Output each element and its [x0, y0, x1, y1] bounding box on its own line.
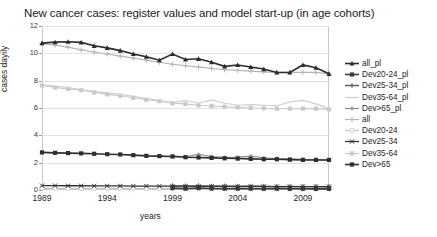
legend-marker-icon: [344, 159, 360, 170]
y-tick-mark: [39, 81, 42, 82]
data-point-marker: [223, 156, 227, 160]
y-tick-label: 8: [16, 77, 38, 85]
y-tick-mark: [39, 135, 42, 136]
data-point-marker: [313, 70, 318, 75]
data-point-marker: [196, 155, 200, 159]
legend-label: Dev>65: [362, 159, 390, 170]
legend-item[interactable]: Dev25-34_pl: [344, 80, 436, 91]
data-point-marker: [235, 68, 240, 73]
data-point-marker: [183, 102, 187, 106]
data-point-marker: [300, 70, 305, 75]
legend-label: Dev25-34_pl: [362, 80, 408, 91]
data-point-marker: [249, 187, 253, 191]
legend-label: all: [362, 114, 370, 125]
legend-marker-icon: [344, 69, 360, 80]
legend-item[interactable]: Dev35-64: [344, 148, 436, 159]
data-point-marker: [144, 154, 148, 158]
x-tick-label: 1999: [152, 193, 192, 203]
data-point-marker: [79, 47, 84, 52]
data-point-marker: [314, 158, 318, 162]
data-point-marker: [183, 63, 188, 68]
data-point-marker: [349, 117, 354, 122]
legend-item[interactable]: Dev25-34: [344, 136, 436, 147]
legend-marker-icon: [344, 114, 360, 125]
legend-label: all_pl: [362, 58, 381, 69]
legend-item[interactable]: Dev35-64_pl: [344, 92, 436, 103]
data-point-marker: [349, 83, 354, 88]
x-axis-label: years: [140, 211, 161, 221]
legend-label: Dev35-64: [362, 148, 398, 159]
data-point-marker: [249, 157, 253, 161]
y-tick-label: 6: [16, 104, 38, 112]
data-point-marker: [92, 152, 96, 156]
data-point-marker: [275, 157, 279, 161]
plot-area: [42, 26, 329, 190]
data-point-marker: [131, 56, 136, 61]
data-point-marker: [248, 69, 253, 74]
data-point-marker: [301, 158, 305, 162]
data-point-marker: [105, 51, 110, 56]
legend-item[interactable]: Dev20-24_pl: [344, 69, 436, 80]
data-point-marker: [170, 154, 174, 158]
legend-label: Dev20-24_pl: [362, 69, 408, 80]
legend-item[interactable]: all: [344, 114, 436, 125]
y-axis-label: cases dayily: [0, 46, 9, 92]
series-Dev35-64: [40, 83, 331, 111]
data-point-marker: [350, 106, 354, 110]
chart-title: New cancer cases: register values and mo…: [24, 7, 374, 19]
x-tick-label: 2009: [283, 193, 323, 203]
y-tick-mark: [39, 26, 42, 27]
data-point-marker: [288, 107, 292, 111]
data-point-marker: [157, 154, 161, 158]
data-point-marker: [209, 104, 213, 108]
y-tick-mark: [39, 53, 42, 54]
data-point-marker: [249, 106, 253, 110]
data-point-marker: [350, 129, 354, 133]
data-point-marker: [105, 152, 109, 156]
legend-item[interactable]: Dev>65: [344, 159, 436, 170]
data-point-marker: [170, 62, 175, 67]
series-all_pl: [40, 39, 332, 76]
data-point-marker: [288, 187, 292, 191]
legend-marker-icon: [344, 125, 360, 136]
data-point-marker: [223, 105, 227, 109]
data-point-marker: [301, 187, 305, 191]
legend-label: Dev35-64_pl: [362, 92, 408, 103]
data-point-marker: [66, 151, 70, 155]
x-tick-label: 1989: [22, 193, 62, 203]
data-point-marker: [209, 66, 214, 71]
x-tick-label: 1994: [87, 193, 127, 203]
data-point-marker: [209, 156, 213, 160]
legend-item[interactable]: all_pl: [344, 58, 436, 69]
data-point-marker: [196, 64, 201, 69]
data-point-marker: [314, 107, 318, 111]
legend-marker-icon: [344, 148, 360, 159]
data-point-marker: [350, 162, 354, 166]
data-point-marker: [301, 107, 305, 111]
data-point-marker: [40, 150, 44, 154]
legend-label: Dev20-24: [362, 125, 398, 136]
legend-item[interactable]: Dev20-24: [344, 125, 436, 136]
y-tick-mark: [39, 190, 42, 191]
data-point-marker: [65, 45, 70, 50]
x-tick-label: 2004: [218, 193, 258, 203]
legend-item[interactable]: Dev>65_pl: [344, 103, 436, 114]
data-point-marker: [170, 52, 175, 57]
data-point-marker: [53, 151, 57, 155]
data-point-marker: [275, 107, 279, 111]
y-tick-label: 12: [16, 22, 38, 30]
legend-label: Dev>65_pl: [362, 103, 401, 114]
legend-marker-icon: [344, 136, 360, 147]
y-tick-label: 10: [16, 49, 38, 57]
data-point-marker: [262, 106, 266, 110]
data-point-marker: [209, 186, 213, 190]
data-point-marker: [131, 153, 135, 157]
series-Dev>65: [40, 150, 331, 162]
chart-series-layer: [42, 26, 329, 190]
y-tick-mark: [39, 163, 42, 164]
chart-legend: all_plDev20-24_plDev25-34_plDev35-64_plD…: [344, 58, 436, 170]
data-point-marker: [79, 151, 83, 155]
data-point-marker: [236, 156, 240, 160]
chart-container: New cancer cases: register values and mo…: [0, 0, 437, 237]
legend-marker-icon: [344, 80, 360, 91]
